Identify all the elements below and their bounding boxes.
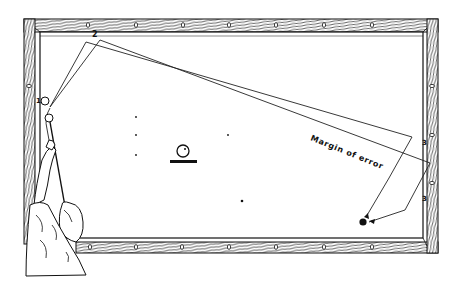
spot-base — [170, 160, 197, 163]
cue-ball — [41, 97, 49, 105]
rail-label-right-upper: 3 — [422, 139, 427, 147]
object-ball — [359, 218, 366, 225]
table-bed — [40, 32, 423, 238]
second-ball — [45, 114, 53, 122]
table-frame — [24, 19, 438, 253]
spot-ball-dot — [184, 148, 186, 150]
spot-ball — [177, 145, 189, 157]
rail-label-top: 2 — [92, 30, 98, 39]
rail-label-right-lower: 3 — [422, 195, 427, 203]
billiards-diagram: 2 1 3 3 Margin of error — [0, 0, 458, 286]
rail-label-left: 1 — [36, 97, 41, 105]
bottom-rail — [76, 242, 438, 253]
